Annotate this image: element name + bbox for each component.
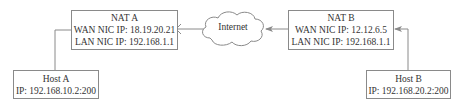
nat-b-title: NAT B — [327, 12, 354, 24]
nat-a-node: NAT A WAN NIC IP: 18.19.20.21 LAN NIC IP… — [71, 10, 178, 50]
nat-a-lan-ip: LAN NIC IP: 192.168.1.1 — [75, 36, 174, 48]
host-b-to-nat-b-link — [395, 29, 408, 70]
host-a-ip: IP: 192.168.10.2:200 — [16, 85, 96, 97]
nat-b-wan-ip: WAN NIC IP: 12.12.6.5 — [295, 24, 387, 36]
host-a-node: Host A IP: 192.168.10.2:200 — [13, 70, 99, 99]
host-a-to-nat-a-link — [55, 30, 71, 70]
nat-b-node: NAT B WAN NIC IP: 12.12.6.5 LAN NIC IP: … — [288, 10, 394, 50]
host-b-node: Host B IP: 192.168.20.2:200 — [366, 70, 451, 99]
nat-a-title: NAT A — [111, 12, 138, 24]
nat-b-lan-ip: LAN NIC IP: 192.168.1.1 — [291, 36, 390, 48]
internet-label: Internet — [203, 22, 263, 32]
host-b-ip: IP: 192.168.20.2:200 — [368, 85, 448, 97]
nat-a-wan-ip: WAN NIC IP: 18.19.20.21 — [74, 24, 175, 36]
host-b-title: Host B — [395, 73, 422, 85]
host-a-title: Host A — [43, 73, 70, 85]
